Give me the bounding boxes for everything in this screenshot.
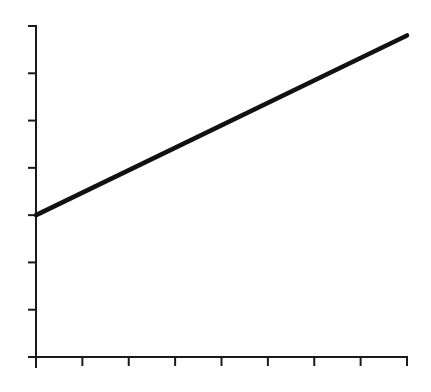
data-line [36,35,407,215]
line-chart [0,0,431,392]
y-axis [28,26,37,368]
plot-series [36,35,407,215]
x-axis [29,356,407,366]
